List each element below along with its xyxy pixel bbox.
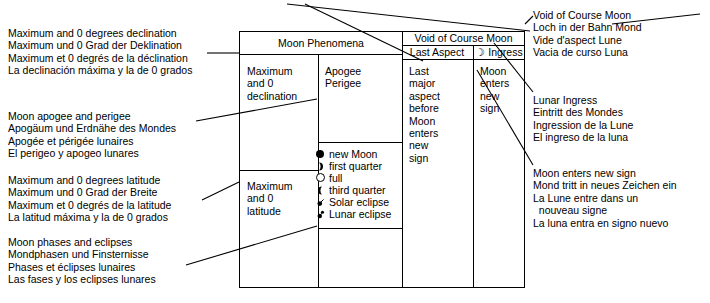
void-of-course-caption-line-4: Vacia de curso Luna — [533, 46, 628, 58]
legend-row-solar-eclipse: Solar eclipse — [316, 196, 391, 208]
declination-caption-line-4: La declinación máxima y la de 0 grados — [8, 64, 192, 76]
latitude-caption-line-2: Maximum und 0 Grad der Breite — [8, 186, 157, 198]
lunar-ingress-caption: Lunar IngressEintritt des MondesIngressi… — [533, 94, 633, 144]
legend-label-third-quarter: third quarter — [329, 184, 386, 196]
phases-eclipses-caption-line-2: Mondphasen und Finsternisse — [8, 248, 149, 260]
row-divider-phases-bottom — [318, 228, 403, 229]
phases-eclipses-caption-line-1: Moon phases and eclipses — [8, 236, 132, 248]
header-rule-left — [240, 54, 403, 55]
legend-label-new-moon: new Moon — [329, 148, 377, 160]
moon-enters-new-sign-caption-line-2: Mond tritt in neues Zeichen ein — [533, 179, 677, 191]
row-divider-apogee-phases — [318, 142, 403, 143]
cell-apogee-perigee: Apogee Perigee — [325, 65, 361, 90]
header-rule-right — [402, 59, 525, 60]
declination-caption: Maximum and 0 degrees declinationMaximum… — [8, 27, 192, 77]
legend-label-lunar-eclipse: Lunar eclipse — [329, 208, 391, 220]
apogee-perigee-caption-line-2: Apogäum und Erdnähe des Mondes — [8, 122, 176, 134]
latitude-caption-line-3: Maximum et 0 degrés de la latitude — [8, 199, 171, 211]
legend-row-first-quarter: first quarter — [316, 160, 391, 172]
solar-eclipse-icon — [316, 196, 329, 208]
legend-label-full-moon: full — [329, 172, 342, 184]
leader-void-top-1 — [287, 4, 530, 31]
third-quarter-icon — [316, 184, 329, 196]
moon-enters-new-sign-caption-line-1: Moon enters new sign — [533, 167, 636, 179]
legend-row-new-moon: new Moon — [316, 148, 391, 160]
moon-phase-legend: new Moon first quarter full — [316, 148, 391, 221]
moon-phenomena-table: Moon Phenomena Void of Course Moon Last … — [239, 31, 525, 288]
declination-caption-line-2: Maximum und 0 Grad der Deklination — [8, 39, 182, 51]
apogee-perigee-caption-line-1: Moon apogee and perigee — [8, 110, 131, 122]
apogee-perigee-caption: Moon apogee and perigeeApogäum und Erdnä… — [8, 110, 176, 160]
legend-row-third-quarter: third quarter — [316, 184, 391, 196]
full-moon-icon — [316, 172, 329, 184]
lunar-ingress-caption-line-1: Lunar Ingress — [533, 94, 597, 106]
cell-last-aspect-body: Last major aspect before Moon enters new… — [409, 65, 440, 164]
column-divider-2 — [402, 32, 403, 287]
legend-row-full-moon: full — [316, 172, 391, 184]
column-divider-3 — [473, 46, 474, 287]
cell-declination: Maximum and 0 declination — [247, 65, 297, 102]
latitude-caption-line-4: La latitud máxima y la de 0 grados — [8, 211, 168, 223]
cell-ingress-body: Moon enters new sign — [480, 65, 509, 115]
void-of-course-caption-line-2: Loch in der Bahn Mond — [533, 21, 642, 33]
first-quarter-icon — [316, 160, 329, 172]
void-of-course-caption: Void of Course MoonLoch in der Bahn Mond… — [533, 9, 642, 59]
legend-label-first-quarter: first quarter — [329, 160, 382, 172]
lunar-ingress-caption-line-3: Ingression de la Lune — [533, 119, 633, 131]
new-moon-icon — [316, 148, 329, 160]
diagram-canvas: Maximum and 0 degrees declinationMaximum… — [0, 0, 710, 303]
void-of-course-caption-line-1: Void of Course Moon — [533, 9, 631, 21]
apogee-perigee-caption-line-3: Apogée et périgée lunaires — [8, 135, 134, 147]
row-divider-declination-latitude — [240, 170, 319, 171]
declination-caption-line-1: Maximum and 0 degrees declination — [8, 27, 177, 39]
phases-eclipses-caption-line-4: Las fases y los eclipses lunares — [8, 273, 156, 285]
lunar-ingress-caption-line-2: Eintritt des Mondes — [533, 106, 623, 118]
moon-enters-new-sign-caption: Moon enters new signMond tritt in neues … — [533, 167, 677, 229]
ingress-header: ☽ Ingress — [473, 46, 525, 58]
void-of-course-header: Void of Course Moon — [402, 32, 525, 44]
apogee-perigee-caption-line-4: El perigeo y apogeo lunares — [8, 147, 139, 159]
moon-enters-new-sign-caption-line-5: La luna entra en signo nuevo — [533, 217, 668, 229]
legend-label-solar-eclipse: Solar eclipse — [329, 196, 389, 208]
latitude-caption: Maximum and 0 degrees latitudeMaximum un… — [8, 174, 171, 224]
leader-latitude — [202, 182, 239, 200]
cell-latitude: Maximum and 0 latitude — [247, 180, 293, 217]
moon-enters-new-sign-caption-line-3: La Lune entre dans un — [533, 192, 638, 204]
lunar-ingress-caption-line-4: El ingreso de la luna — [533, 131, 628, 143]
moon-phenomena-header: Moon Phenomena — [240, 37, 402, 49]
declination-caption-line-3: Maximum et 0 degrés de la déclination — [8, 52, 188, 64]
phases-eclipses-caption-line-3: Phases et éclipses lunaires — [8, 261, 135, 273]
phases-eclipses-caption: Moon phases and eclipsesMondphasen und F… — [8, 236, 156, 286]
moon-enters-new-sign-caption-line-4: nouveau signe — [533, 204, 607, 216]
void-of-course-caption-line-3: Vide d'aspect Lune — [533, 34, 622, 46]
leader-void-of-course — [525, 16, 533, 24]
last-aspect-header: Last Aspect — [401, 46, 473, 58]
legend-row-lunar-eclipse: Lunar eclipse — [316, 208, 391, 220]
latitude-caption-line-1: Maximum and 0 degrees latitude — [8, 174, 160, 186]
lunar-eclipse-icon — [316, 208, 329, 220]
